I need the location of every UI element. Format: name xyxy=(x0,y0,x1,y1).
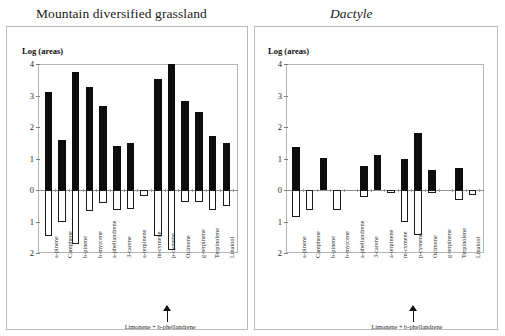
bar-negative xyxy=(360,190,367,197)
bar-negative xyxy=(387,190,394,193)
bar-positive xyxy=(72,72,80,190)
bar-negative xyxy=(58,190,66,222)
x-axis-label: a-terpinene xyxy=(387,230,394,258)
bar-negative xyxy=(414,190,421,235)
figure-root: Mountain diversified grassland Log (area… xyxy=(0,0,505,336)
zero-tick-left xyxy=(178,189,179,192)
y-tick-label-right: 2 xyxy=(268,248,282,258)
bar-negative xyxy=(140,190,148,196)
y-tick-mark-left xyxy=(36,64,40,65)
x-axis-label: b-pinene xyxy=(329,236,336,258)
zero-tick-right xyxy=(357,189,358,192)
y-tick-mark-right xyxy=(284,96,288,97)
bar-positive xyxy=(455,168,462,190)
zero-tick-right xyxy=(425,189,426,192)
x-axis-label: Terpinolene xyxy=(460,228,467,258)
bar-negative xyxy=(333,190,340,210)
y-tick-mark-right xyxy=(284,64,288,65)
bar-positive xyxy=(58,140,66,190)
y-tick-label-left: 1 xyxy=(20,217,34,227)
zero-tick-right xyxy=(330,189,331,192)
zero-tick-right xyxy=(371,189,372,192)
x-axis-label: Camphene xyxy=(314,231,321,258)
zero-tick-right xyxy=(384,189,385,192)
y-tick-mark-left xyxy=(36,253,40,254)
y-tick-label-left: 4 xyxy=(20,59,34,69)
bar-positive xyxy=(99,106,107,190)
y-tick-label-left: 3 xyxy=(20,91,34,101)
zero-tick-left xyxy=(83,189,84,192)
bar-negative xyxy=(154,190,162,236)
zero-tick-left xyxy=(69,189,70,192)
y-tick-mark-right xyxy=(284,159,288,160)
y-tick-label-left: 0 xyxy=(20,185,34,195)
zero-tick-left xyxy=(110,189,111,192)
zero-tick-left xyxy=(192,189,193,192)
x-axis-label: b-myrcene xyxy=(96,231,103,258)
y-tick-label-left: 1 xyxy=(20,154,34,164)
annotation-text-right: Limonene + b-phellandrene xyxy=(371,323,442,330)
zero-tick-left xyxy=(165,189,166,192)
zero-tick-left xyxy=(55,189,56,192)
bar-positive xyxy=(401,159,408,191)
zero-tick-right xyxy=(439,189,440,192)
x-axis-label: a-phellandrene xyxy=(358,221,365,258)
bar-negative xyxy=(86,190,94,211)
x-axis-label: p-cymene xyxy=(169,233,176,258)
y-tick-label-right: 1 xyxy=(268,154,282,164)
x-axis-label: p-cymene xyxy=(416,233,423,258)
zero-tick-right xyxy=(452,189,453,192)
bar-positive xyxy=(292,147,299,190)
bar-positive xyxy=(320,158,327,190)
bar-positive xyxy=(223,143,231,190)
zero-tick-right xyxy=(344,189,345,192)
zero-tick-left xyxy=(206,189,207,192)
x-axis-label: Camphene xyxy=(66,231,73,258)
y-tick-mark-left xyxy=(36,127,40,128)
bar-negative xyxy=(455,190,462,200)
bar-positive xyxy=(45,92,53,190)
x-axis-label: 3-carene xyxy=(125,236,132,258)
bar-negative xyxy=(127,190,135,209)
x-axis-label: 3-carene xyxy=(372,236,379,258)
annotation-stem-left xyxy=(167,311,168,322)
bar-negative xyxy=(45,190,53,236)
y-tick-mark-left xyxy=(36,159,40,160)
zero-tick-right xyxy=(411,189,412,192)
x-axis-label: Ocimene xyxy=(431,235,438,258)
bar-positive xyxy=(113,146,121,190)
bar-negative xyxy=(401,190,408,222)
bar-negative xyxy=(99,190,107,203)
zero-tick-left xyxy=(96,189,97,192)
zero-tick-left xyxy=(233,189,234,192)
x-axis-label: m-cymene xyxy=(401,231,408,258)
zero-tick-right xyxy=(466,189,467,192)
x-axis-label: Linalool xyxy=(474,237,481,258)
zero-tick-left xyxy=(151,189,152,192)
zero-tick-right xyxy=(398,189,399,192)
y-tick-mark-right xyxy=(284,222,288,223)
bar-positive xyxy=(86,87,94,190)
x-axis-label: Ocimene xyxy=(184,235,191,258)
chart-title-left: Mountain diversified grassland xyxy=(36,6,207,22)
x-axis-label: b-myrcene xyxy=(343,231,350,258)
bar-positive xyxy=(360,166,367,190)
bar-negative xyxy=(223,190,231,206)
annotation-stem-right xyxy=(413,311,414,322)
x-axis-label: m-cymene xyxy=(155,231,162,258)
x-axis-label: Terpinolene xyxy=(213,228,220,258)
x-axis-label: b-pinene xyxy=(81,236,88,258)
bar-positive xyxy=(209,136,217,190)
y-tick-mark-right xyxy=(284,253,288,254)
bar-positive xyxy=(154,79,162,190)
y-tick-label-right: 4 xyxy=(268,59,282,69)
plot-area-right xyxy=(286,64,484,253)
bar-negative xyxy=(292,190,299,217)
zero-tick-right xyxy=(317,189,318,192)
zero-tick-right xyxy=(303,189,304,192)
bar-negative xyxy=(181,190,189,202)
bar-positive xyxy=(181,101,189,190)
y-tick-mark-left xyxy=(36,222,40,223)
bar-negative xyxy=(209,190,217,210)
x-axis-label: a-phellandrene xyxy=(110,221,117,258)
